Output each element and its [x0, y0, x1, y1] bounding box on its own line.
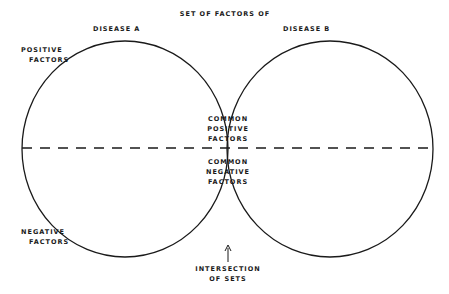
set-disease-a-circle — [22, 41, 228, 257]
positive-factors-label: Positive factors — [21, 45, 69, 65]
common-negative-factors-label: Common negative factors — [188, 157, 268, 187]
intersection-annotation: Intersection of sets — [188, 264, 268, 284]
set-disease-b-circle — [227, 41, 433, 257]
set-label-disease-a: Disease A — [93, 24, 140, 34]
common-positive-factors-label: Common positive factors — [188, 114, 268, 144]
diagram-title: Set of factors of — [160, 9, 290, 19]
set-label-disease-b: Disease B — [283, 24, 330, 34]
negative-factors-label: Negative factors — [21, 227, 69, 247]
